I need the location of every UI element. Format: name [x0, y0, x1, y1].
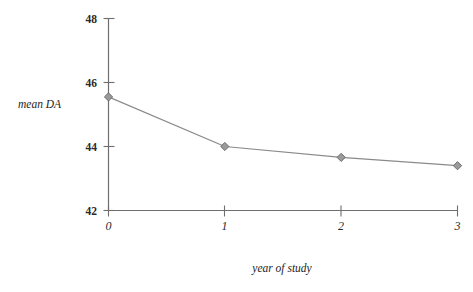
series-markers	[104, 93, 461, 170]
x-tick-labels: 0 1 2 3	[106, 219, 461, 233]
y-tick-labels: 48 46 44 42	[86, 13, 98, 217]
x-tick-label-0: 0	[106, 219, 112, 233]
y-tick-label-46: 46	[86, 77, 98, 89]
series-line	[109, 97, 458, 166]
x-axis-title: year of study	[251, 262, 312, 275]
chart-figure: 48 46 44 42 0 1 2 3 mean DA year of stud…	[0, 0, 473, 292]
data-point-marker	[337, 153, 345, 161]
y-tick-label-44: 44	[86, 141, 98, 153]
y-axis-title: mean DA	[18, 98, 62, 110]
x-tick-label-2: 2	[338, 219, 344, 233]
x-tick-label-1: 1	[222, 219, 228, 233]
data-point-marker	[104, 93, 112, 101]
line-chart: 48 46 44 42 0 1 2 3 mean DA year of stud…	[0, 0, 473, 292]
y-tick-label-48: 48	[86, 13, 98, 25]
data-point-marker	[453, 162, 461, 170]
data-point-marker	[221, 142, 229, 150]
x-tick-label-3: 3	[454, 219, 461, 233]
y-tick-label-42: 42	[86, 205, 98, 217]
data-series-mean-da	[104, 93, 461, 170]
